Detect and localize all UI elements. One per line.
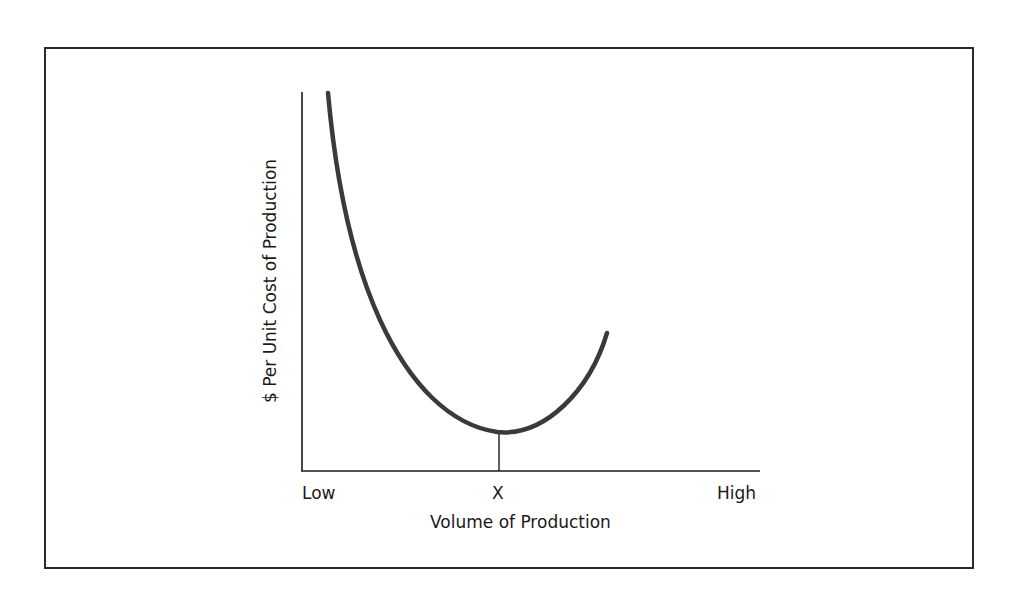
y-axis-label: $ Per Unit Cost of Production (260, 159, 280, 403)
x-tick-low: Low (302, 485, 335, 502)
x-axis-label: Volume of Production (430, 514, 611, 531)
x-tick-x: X (492, 485, 504, 502)
cost-curve (328, 93, 607, 432)
x-tick-high: High (717, 485, 756, 502)
